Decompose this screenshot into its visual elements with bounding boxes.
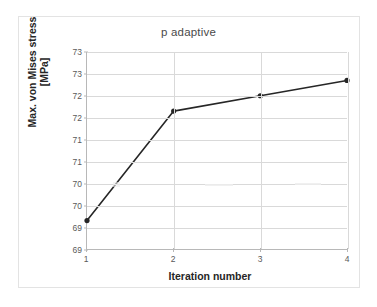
y-axis-title-line1: Max. von Mises stress	[26, 17, 38, 128]
y-tick-label: 70	[60, 179, 82, 189]
gridline-vertical	[261, 52, 262, 249]
y-tick-label: 73	[60, 47, 82, 57]
gridline-vertical	[174, 52, 175, 249]
y-axis-title: Max. von Mises stress [MPa]	[26, 0, 50, 162]
gridline-horizontal	[87, 96, 347, 97]
data-point-marker	[84, 218, 89, 223]
scan-artifact-2	[295, 183, 321, 185]
gridline-horizontal	[87, 228, 347, 229]
plot-area	[86, 52, 347, 250]
x-axis-ticks: 1234	[86, 252, 347, 266]
series-line-chart	[87, 52, 347, 249]
scan-artifact-1	[205, 184, 233, 186]
x-tick-mark	[173, 248, 174, 252]
x-tick-mark	[86, 248, 87, 252]
chart-title: p adaptive	[0, 26, 377, 38]
y-tick-label: 72	[60, 91, 82, 101]
gridline-horizontal	[87, 162, 347, 163]
x-tick-mark	[347, 248, 348, 252]
x-axis-title: Iteration number	[60, 270, 360, 282]
x-tick-label: 2	[163, 254, 183, 264]
gridline-vertical	[348, 52, 349, 249]
series-markers	[84, 78, 349, 223]
gridline-horizontal	[87, 52, 347, 53]
y-tick-label: 71	[60, 157, 82, 167]
x-tick-label: 4	[337, 254, 357, 264]
gridline-horizontal	[87, 206, 347, 207]
series-polyline	[87, 80, 347, 220]
y-axis-ticks: 73737272717170706969	[56, 52, 82, 250]
y-tick-label: 71	[60, 135, 82, 145]
y-axis-title-line2: [MPa]	[38, 17, 50, 128]
gridline-horizontal	[87, 140, 347, 141]
chart-canvas: p adaptive Max. von Mises stress [MPa] 7…	[0, 0, 377, 307]
y-tick-label: 72	[60, 113, 82, 123]
x-tick-label: 1	[76, 254, 96, 264]
gridline-horizontal	[87, 74, 347, 75]
gridline-horizontal	[87, 118, 347, 119]
y-tick-label: 69	[60, 223, 82, 233]
x-tick-label: 3	[250, 254, 270, 264]
x-tick-mark	[260, 248, 261, 252]
scan-artifact-3	[113, 182, 120, 187]
y-tick-label: 73	[60, 69, 82, 79]
y-tick-label: 70	[60, 201, 82, 211]
